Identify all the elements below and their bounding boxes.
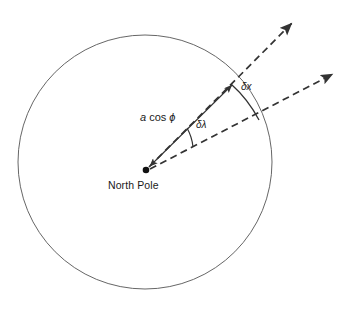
diagram-canvas — [0, 0, 353, 312]
polar-geometry-diagram: North Pole a cos ϕ δλ δx — [0, 0, 353, 312]
radius-label-phi: ϕ — [169, 111, 175, 123]
radius-arrow — [150, 85, 232, 166]
radius-label: a cos ϕ — [140, 112, 175, 123]
delta-x-label: δx — [241, 82, 252, 92]
delta-lambda-label: δλ — [196, 120, 206, 130]
arc-delta-lambda — [187, 128, 193, 147]
north-pole-label: North Pole — [108, 180, 159, 191]
north-pole-point — [143, 167, 150, 174]
latitude-circle — [18, 35, 272, 289]
radius-label-cos: cos — [146, 111, 169, 123]
